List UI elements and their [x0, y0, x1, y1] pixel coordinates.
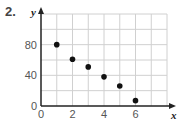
data-point [117, 83, 123, 89]
y-tick-label: 40 [25, 69, 37, 81]
x-tick-label: 6 [132, 108, 138, 120]
y-axis-label: y [29, 6, 36, 18]
data-point [85, 64, 91, 70]
data-point [54, 42, 60, 48]
y-axis-arrow [38, 7, 44, 14]
x-tick-label: 0 [38, 108, 44, 120]
scatter-chart: 024604080xy [0, 0, 179, 128]
data-point [133, 98, 139, 104]
y-tick-label: 0 [31, 100, 37, 112]
y-tick-label: 80 [25, 39, 37, 51]
x-tick-label: 4 [101, 108, 107, 120]
x-tick-label: 2 [69, 108, 75, 120]
x-axis-label: x [170, 109, 177, 121]
data-point [70, 56, 76, 62]
data-point [101, 74, 107, 80]
